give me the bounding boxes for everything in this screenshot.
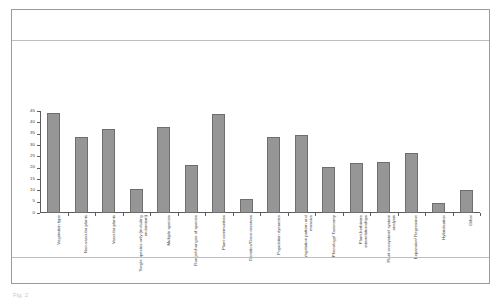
y-axis-tick-label: 35 xyxy=(30,130,35,135)
y-axis-tick-label: 40 xyxy=(30,119,35,124)
y-axis-tick-label: 0 xyxy=(33,210,35,215)
figure-frame: 051015202530354045 Vegetation typeNon-va… xyxy=(11,9,490,284)
bar xyxy=(460,190,473,213)
bar xyxy=(377,162,390,213)
figure-caption: Fig. 2 xyxy=(13,292,28,298)
bar xyxy=(405,153,418,213)
y-axis-tick: 15 xyxy=(37,179,40,180)
bar xyxy=(130,189,143,213)
bar xyxy=(102,129,115,213)
y-axis-tick: 30 xyxy=(37,145,40,146)
bar xyxy=(47,113,60,213)
y-axis-tick-label: 10 xyxy=(30,187,35,192)
bar xyxy=(267,137,280,213)
chart-title-band xyxy=(12,10,489,41)
y-axis-tick: 40 xyxy=(37,122,40,123)
plot-area: 051015202530354045 xyxy=(40,111,480,213)
y-axis-tick: 25 xyxy=(37,156,40,157)
bar xyxy=(212,114,225,213)
y-axis-tick-label: 45 xyxy=(30,108,35,113)
y-axis-tick-label: 20 xyxy=(30,164,35,169)
bar xyxy=(240,199,253,213)
y-axis-tick: 45 xyxy=(37,111,40,112)
bar xyxy=(157,127,170,213)
bar xyxy=(322,167,335,213)
chart-title xyxy=(12,10,489,20)
bar xyxy=(75,137,88,213)
y-axis-tick: 0 xyxy=(37,213,40,214)
x-axis-tick xyxy=(480,213,481,216)
plot-wrapper: 051015202530354045 Vegetation typeNon-va… xyxy=(12,41,489,257)
bar xyxy=(432,203,445,213)
y-axis-tick-label: 15 xyxy=(30,176,35,181)
bar xyxy=(350,163,363,213)
y-axis-tick: 5 xyxy=(37,202,40,203)
y-axis-tick-label: 30 xyxy=(30,142,35,147)
figure-page: 051015202530354045 Vegetation typeNon-va… xyxy=(0,0,503,305)
y-axis-tick: 10 xyxy=(37,190,40,191)
y-axis-tick: 20 xyxy=(37,168,40,169)
y-axis-tick: 35 xyxy=(37,134,40,135)
chart-footer-band xyxy=(12,257,489,283)
bar xyxy=(185,165,198,213)
bars-layer xyxy=(40,111,480,213)
bar xyxy=(295,135,308,213)
y-axis-tick-label: 25 xyxy=(30,153,35,158)
y-axis-tick-label: 5 xyxy=(33,198,35,203)
